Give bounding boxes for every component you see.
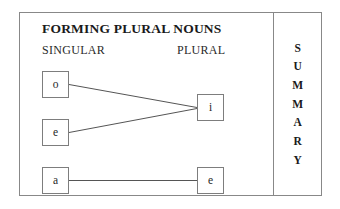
edge-e-to-i [69,109,197,133]
diagram-frame: FORMING PLURAL NOUNS SINGULAR PLURAL o e… [19,12,322,196]
summary-letter: S [295,39,302,58]
node-singular-o[interactable]: o [42,71,69,98]
node-label: e [208,175,213,187]
summary-letter: M [292,95,303,114]
node-plural-e[interactable]: e [197,167,224,194]
node-label: a [53,175,58,187]
summary-letter: A [294,113,303,132]
main-panel: FORMING PLURAL NOUNS SINGULAR PLURAL o e… [20,13,273,195]
summary-letter: U [294,57,303,76]
node-label: o [53,79,59,91]
summary-tab[interactable]: S U M M A R Y [274,13,322,195]
node-singular-a[interactable]: a [42,167,69,194]
summary-letter: Y [294,151,303,170]
edge-o-to-i [69,85,197,108]
node-label: i [209,102,212,114]
diagram-screenshot: FORMING PLURAL NOUNS SINGULAR PLURAL o e… [0,0,340,209]
node-singular-e[interactable]: e [42,119,69,146]
summary-letter: M [292,76,303,95]
summary-letter: R [294,132,303,151]
node-label: e [53,127,58,139]
node-plural-i[interactable]: i [197,94,224,121]
